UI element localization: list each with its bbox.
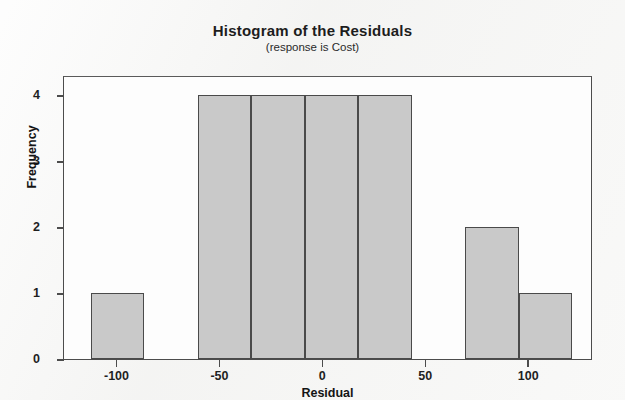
y-axis-tick <box>57 95 64 96</box>
y-axis-tick <box>57 227 64 228</box>
histogram-bar <box>91 293 145 359</box>
histogram-bar <box>465 227 519 359</box>
x-axis-tick <box>527 360 528 367</box>
x-axis-tick-label: -50 <box>189 370 249 383</box>
x-axis-tick <box>322 360 323 367</box>
histogram-bar <box>198 95 252 359</box>
x-axis-tick <box>116 360 117 367</box>
histogram-bar <box>251 95 305 359</box>
chart-title-block: Histogram of the Residuals (response is … <box>0 22 625 55</box>
plot-frame <box>63 76 592 360</box>
x-axis-tick-label: 0 <box>292 370 352 383</box>
y-axis-tick <box>57 293 64 294</box>
histogram-bar <box>358 95 412 359</box>
x-axis-tick-label: -100 <box>87 370 147 383</box>
x-axis-tick <box>219 360 220 367</box>
chart-subtitle: (response is Cost) <box>0 40 625 55</box>
x-axis-tick-label: 100 <box>498 370 558 383</box>
y-axis-title: Frequency <box>25 87 39 227</box>
histogram-bar <box>305 95 359 359</box>
histogram-screenshot: Histogram of the Residuals (response is … <box>0 0 625 400</box>
y-axis-tick-label: 1 <box>0 287 40 299</box>
x-axis-tick <box>425 360 426 367</box>
y-axis-tick <box>57 161 64 162</box>
y-axis-tick-label: 0 <box>0 353 40 365</box>
plot-area <box>64 77 591 359</box>
histogram-bar <box>519 293 573 359</box>
x-axis-tick-label: 50 <box>395 370 455 383</box>
chart-title: Histogram of the Residuals <box>0 22 625 39</box>
x-axis-title: Residual <box>63 386 592 400</box>
y-axis-tick <box>57 359 64 360</box>
